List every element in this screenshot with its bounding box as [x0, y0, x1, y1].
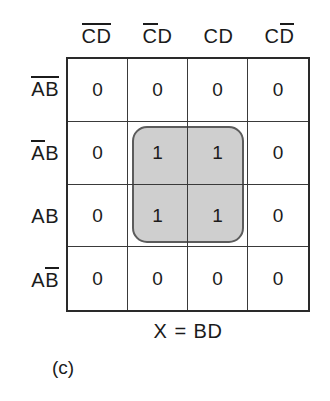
kmap-cell-value: 0	[92, 269, 103, 288]
column-header-0-term: CD	[82, 24, 112, 48]
kmap-cell-value: 0	[273, 206, 284, 225]
kmap-cell-r2-c1[interactable]: 1	[128, 185, 188, 248]
literal-C: C	[265, 24, 280, 48]
row-header-3: AB	[6, 248, 64, 312]
column-header-2-term: CD	[204, 24, 234, 48]
kmap-cell-value: 0	[273, 269, 284, 288]
kmap-cell-r0-c0[interactable]: 0	[68, 59, 128, 122]
karnaugh-map-figure: CD CD CD CD AB AB AB AB 0000011001100000…	[0, 0, 330, 401]
literal-C-negated: C	[143, 24, 158, 48]
kmap-cell-r1-c3[interactable]: 0	[248, 122, 308, 185]
literal-D: D	[158, 24, 173, 48]
kmap-cell-value: 1	[212, 206, 223, 225]
kmap-cell-r3-c3[interactable]: 0	[248, 247, 308, 310]
row-header-column: AB AB AB AB	[6, 57, 64, 312]
column-header-3-term: CD	[265, 24, 295, 48]
kmap-cell-r2-c0[interactable]: 0	[68, 185, 128, 248]
kmap-cell-r2-c2[interactable]: 1	[188, 185, 248, 248]
literal-A: A	[31, 204, 45, 228]
literal-B-negated: B	[45, 268, 59, 292]
kmap-cell-value: 0	[212, 80, 223, 99]
literal-A: A	[31, 268, 45, 292]
kmap-cell-value: 0	[152, 269, 163, 288]
kmap-cell-r1-c2[interactable]: 1	[188, 122, 248, 185]
kmap-cell-value: 0	[92, 80, 103, 99]
literal-D-negated: D	[280, 24, 295, 48]
row-header-1-term: AB	[31, 141, 59, 165]
row-header-2-term: AB	[31, 204, 59, 228]
column-header-3: CD	[249, 18, 310, 54]
equation-operator: =	[167, 320, 193, 342]
column-header-1: CD	[127, 18, 188, 54]
literal-C-negated: C	[82, 24, 97, 48]
row-header-2: AB	[6, 185, 64, 249]
row-header-0-term: AB	[31, 77, 59, 101]
kmap-cell-r0-c3[interactable]: 0	[248, 59, 308, 122]
kmap-cell-r1-c0[interactable]: 0	[68, 122, 128, 185]
literal-D-negated: D	[97, 24, 112, 48]
kmap-cell-value: 0	[152, 80, 163, 99]
literal-C: C	[204, 24, 219, 48]
kmap-cell-r0-c1[interactable]: 0	[128, 59, 188, 122]
output-equation: X=BD	[66, 320, 310, 343]
row-header-0: AB	[6, 57, 64, 121]
equation-expression: BD	[194, 320, 223, 342]
kmap-cell-value: 0	[92, 206, 103, 225]
row-header-1: AB	[6, 121, 64, 185]
kmap-cell-r3-c1[interactable]: 0	[128, 247, 188, 310]
figure-label: (c)	[52, 357, 74, 379]
literal-A-negated: A	[31, 141, 45, 165]
kmap-cell-r2-c3[interactable]: 0	[248, 185, 308, 248]
literal-A-negated: A	[31, 77, 45, 101]
kmap-cell-r3-c2[interactable]: 0	[188, 247, 248, 310]
column-header-0: CD	[66, 18, 127, 54]
kmap-cell-value: 0	[273, 143, 284, 162]
kmap-cell-value: 0	[273, 80, 284, 99]
kmap-cell-r0-c2[interactable]: 0	[188, 59, 248, 122]
column-header-2: CD	[188, 18, 249, 54]
literal-B: B	[45, 141, 59, 165]
kmap-cell-r3-c0[interactable]: 0	[68, 247, 128, 310]
kmap-grid: 0000011001100000	[66, 57, 310, 312]
kmap-cell-value: 1	[152, 206, 163, 225]
literal-B-negated: B	[45, 77, 59, 101]
literal-B: B	[45, 204, 59, 228]
column-header-1-term: CD	[143, 24, 173, 48]
kmap-cell-r1-c1[interactable]: 1	[128, 122, 188, 185]
row-header-3-term: AB	[31, 268, 59, 292]
kmap-cell-value: 0	[212, 269, 223, 288]
column-header-row: CD CD CD CD	[66, 18, 310, 54]
literal-D: D	[219, 24, 234, 48]
kmap-cell-value: 1	[212, 143, 223, 162]
equation-output: X	[154, 320, 168, 342]
kmap-cell-value: 1	[152, 143, 163, 162]
kmap-cell-value: 0	[92, 143, 103, 162]
